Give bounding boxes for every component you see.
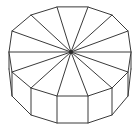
dodecagonal-prism-drawing xyxy=(0,0,140,126)
top-face xyxy=(9,7,131,96)
apex-center-point xyxy=(69,50,73,54)
figure-canvas xyxy=(0,0,140,126)
